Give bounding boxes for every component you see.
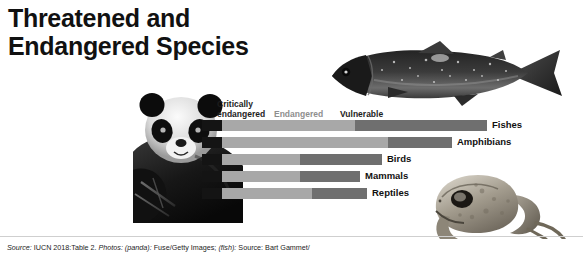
fish-credit-value: Source: Bart Gammet/: [236, 243, 310, 252]
fish-credit-key: (fish):: [218, 243, 236, 252]
infographic-root: Threatened and Endangered Species: [0, 0, 583, 266]
species-bar-chart: FishesAmphibiansBirdsMammalsReptiles: [0, 120, 583, 220]
bar-row: [0, 137, 583, 148]
fish-photo: [322, 40, 578, 106]
bar-tip: [202, 137, 222, 148]
bar-segment-critically-endangered: [222, 120, 355, 131]
legend-endangered: Endangered: [274, 110, 323, 120]
bar-row: [0, 188, 583, 199]
bar-tip: [202, 120, 222, 131]
bar-segment-vulnerable: [300, 154, 382, 165]
bar-segment-critically-endangered: [222, 188, 312, 199]
page-title: Threatened and Endangered Species: [8, 4, 249, 60]
bar-segment-vulnerable: [388, 137, 452, 148]
bar-tip: [202, 188, 222, 199]
bar-row: [0, 120, 583, 131]
bar-row: [0, 171, 583, 182]
source-label: Source:: [7, 243, 32, 252]
bar-segment-vulnerable: [300, 171, 360, 182]
bar-row: [0, 154, 583, 165]
bar-segment-critically-endangered: [222, 171, 300, 182]
bar-tip: [202, 171, 222, 182]
photos-label: Photos:: [99, 243, 123, 252]
bar-tip: [202, 154, 222, 165]
bar-segment-critically-endangered: [222, 137, 388, 148]
footer-divider: [0, 236, 583, 237]
panda-credit-key: (panda):: [123, 243, 152, 252]
legend-critically-endangered: Critically endangered: [217, 100, 265, 119]
bar-segment-vulnerable: [355, 120, 487, 131]
panda-credit-value: Fuse/Getty Images;: [152, 243, 219, 252]
source-text: IUCN 2018:Table 2.: [32, 243, 99, 252]
bar-segment-critically-endangered: [222, 154, 300, 165]
bar-segment-vulnerable: [312, 188, 367, 199]
source-note: Source: IUCN 2018:Table 2. Photos: (pand…: [7, 243, 310, 253]
legend-vulnerable: Vulnerable: [340, 110, 383, 120]
